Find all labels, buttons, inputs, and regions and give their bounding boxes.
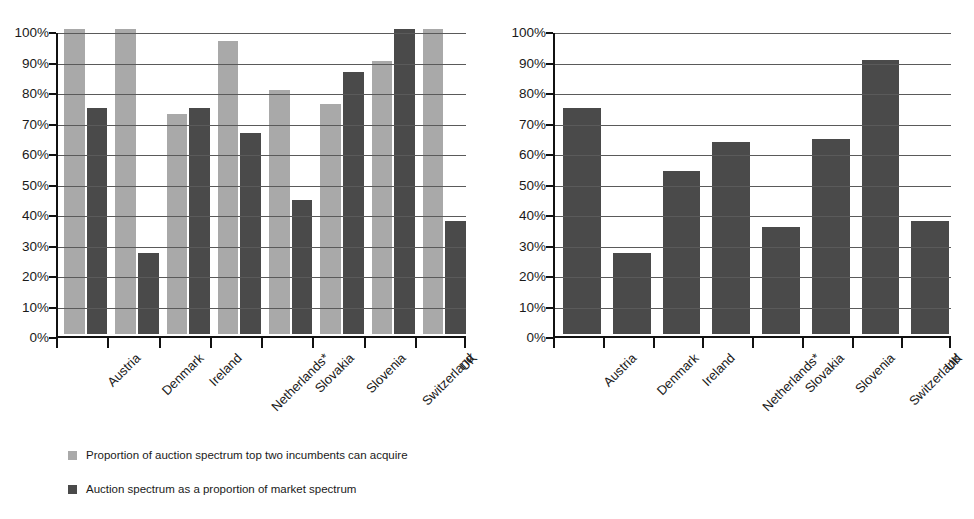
x-axis-category-label: Austria xyxy=(105,351,143,389)
y-tick-label: 20% xyxy=(3,270,49,284)
y-tick-label: 30% xyxy=(500,240,546,254)
bar-group xyxy=(419,33,470,334)
plot-area-left xyxy=(56,33,466,338)
bar xyxy=(613,253,651,334)
x-tick-mark xyxy=(553,338,555,348)
x-tick-mark xyxy=(261,338,263,348)
y-tick-mark xyxy=(49,124,56,126)
gridline xyxy=(555,277,951,278)
legend-item: Auction spectrum as a proportion of mark… xyxy=(68,484,408,496)
x-axis-category-label: Ireland xyxy=(700,351,737,388)
y-axis-right: 0%10%20%30%40%50%60%70%80%90%100% xyxy=(487,33,546,338)
y-tick-label: 50% xyxy=(500,179,546,193)
gridline xyxy=(58,33,466,34)
y-tick-label: 60% xyxy=(500,148,546,162)
x-tick-mark xyxy=(312,338,314,348)
chart-panel-right: 0%10%20%30%40%50%60%70%80%90%100% Austri… xyxy=(487,0,974,519)
x-tick-mark xyxy=(653,338,655,348)
gridline xyxy=(555,308,951,309)
y-tick-mark xyxy=(49,154,56,156)
bar xyxy=(269,90,290,334)
y-tick-label: 10% xyxy=(3,301,49,315)
bar xyxy=(320,104,341,334)
y-tick-mark xyxy=(546,307,553,309)
bar-group xyxy=(607,33,657,334)
chart-panel-left: 0%10%20%30%40%50%60%70%80%90%100% Austri… xyxy=(0,0,487,519)
legend-swatch-icon xyxy=(68,451,77,460)
y-tick-mark xyxy=(546,337,553,339)
bar xyxy=(423,29,444,334)
y-tick-label: 40% xyxy=(3,209,49,223)
y-tick-label: 90% xyxy=(3,57,49,71)
x-tick-mark xyxy=(464,338,466,348)
bar-group xyxy=(557,33,607,334)
y-tick-label: 10% xyxy=(500,301,546,315)
y-tick-mark xyxy=(546,154,553,156)
bar xyxy=(218,41,239,334)
bar xyxy=(167,114,188,334)
gridline xyxy=(58,155,466,156)
plot-area-right xyxy=(553,33,951,338)
bars-layer-right xyxy=(557,33,951,334)
bar-group xyxy=(657,33,707,334)
bar xyxy=(812,139,850,334)
x-tick-mark xyxy=(702,338,704,348)
bar xyxy=(394,29,415,334)
bar-group xyxy=(856,33,906,334)
x-tick-mark xyxy=(901,338,903,348)
x-tick-mark xyxy=(603,338,605,348)
x-axis-category-label: Denmark xyxy=(654,351,700,397)
gridline xyxy=(58,308,466,309)
bar-group xyxy=(60,33,111,334)
gridline xyxy=(58,277,466,278)
bar xyxy=(138,253,159,334)
x-tick-mark xyxy=(415,338,417,348)
x-tick-mark xyxy=(159,338,161,348)
bar xyxy=(663,171,701,334)
gridline xyxy=(58,64,466,65)
y-tick-label: 80% xyxy=(500,87,546,101)
gridline xyxy=(555,216,951,217)
y-tick-label: 30% xyxy=(3,240,49,254)
y-tick-label: 0% xyxy=(500,331,546,345)
bar xyxy=(343,72,364,334)
x-axis-left: AustriaDenmarkIrelandNetherlands*Slovaki… xyxy=(56,338,466,428)
gridline xyxy=(58,216,466,217)
y-tick-mark xyxy=(49,93,56,95)
plot-wrap-right xyxy=(553,33,951,338)
y-tick-mark xyxy=(49,246,56,248)
bar-group xyxy=(214,33,265,334)
plot-wrap-left xyxy=(56,33,466,338)
bar-group xyxy=(368,33,419,334)
bar-group xyxy=(756,33,806,334)
y-tick-label: 40% xyxy=(500,209,546,223)
gridline xyxy=(555,64,951,65)
x-axis-category-label: Ireland xyxy=(207,351,244,388)
x-axis-category-label: Denmark xyxy=(160,351,206,397)
bar xyxy=(189,108,210,334)
y-tick-mark xyxy=(546,93,553,95)
bar xyxy=(64,29,85,334)
y-tick-mark xyxy=(49,307,56,309)
y-tick-label: 70% xyxy=(500,118,546,132)
y-tick-mark xyxy=(49,32,56,34)
bar xyxy=(862,60,900,335)
y-tick-label: 70% xyxy=(3,118,49,132)
x-tick-mark xyxy=(852,338,854,348)
gridline xyxy=(555,33,951,34)
gridline xyxy=(58,186,466,187)
x-tick-mark xyxy=(752,338,754,348)
y-tick-label: 20% xyxy=(500,270,546,284)
x-axis-right: AustriaDenmarkIrelandNetherlands*Slovaki… xyxy=(553,338,951,428)
y-tick-mark xyxy=(49,63,56,65)
y-tick-label: 100% xyxy=(500,26,546,40)
bar xyxy=(563,108,601,334)
legend-label: Proportion of auction spectrum top two i… xyxy=(86,450,408,462)
y-tick-mark xyxy=(546,124,553,126)
y-tick-mark xyxy=(546,185,553,187)
gridline xyxy=(58,247,466,248)
bar xyxy=(115,29,136,334)
bar-group xyxy=(163,33,214,334)
y-tick-mark xyxy=(546,276,553,278)
gridline xyxy=(555,94,951,95)
